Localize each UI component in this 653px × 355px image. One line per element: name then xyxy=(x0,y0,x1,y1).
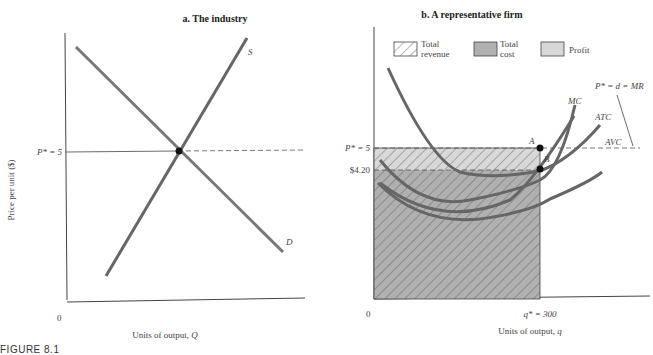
panel-b: b. A representative firm Total revenue T… xyxy=(344,9,650,336)
price-label: P* = 5 xyxy=(344,143,371,153)
mr-label: P* = d = MR xyxy=(594,81,644,91)
point-b xyxy=(537,166,544,173)
panel-a-title: a. The industry xyxy=(182,13,247,24)
point-a-label: A xyxy=(528,136,535,146)
legend-total-cost-label-1: Total xyxy=(500,39,519,49)
origin-label: 0 xyxy=(57,313,62,323)
price-dashed xyxy=(178,150,305,151)
legend-total-cost-label-2: cost xyxy=(500,49,515,59)
x-axis-label: Units of output, Q xyxy=(132,330,198,340)
legend-total-revenue-label-2: revenue xyxy=(421,49,449,59)
x-axis xyxy=(67,298,305,302)
figure-label: FIGURE 8.1 xyxy=(0,344,59,355)
panel-a: a. The industry Price per unit ($) 0 Uni… xyxy=(6,13,305,340)
cost-label: $4.20 xyxy=(350,165,371,175)
legend-total-cost-swatch xyxy=(474,42,497,56)
legend-profit-swatch xyxy=(541,42,564,56)
avc-label: AVC xyxy=(604,137,623,147)
legend-total-revenue-label-1: Total xyxy=(421,39,440,49)
price-line xyxy=(66,151,178,152)
demand-label: D xyxy=(285,237,293,247)
y-axis-label: Price per unit ($) xyxy=(6,159,16,220)
origin-label: 0 xyxy=(366,309,371,319)
q-label: q* = 300 xyxy=(523,309,557,319)
supply-label: S xyxy=(248,47,253,57)
equilibrium-point xyxy=(176,148,183,155)
mc-label: MC xyxy=(567,96,582,106)
supply-curve xyxy=(106,38,247,276)
price-label: P* = 5 xyxy=(36,147,63,157)
panel-b-title: b. A representative firm xyxy=(421,9,523,20)
point-a xyxy=(537,145,544,152)
legend-total-revenue-swatch xyxy=(394,42,417,56)
atc-label: ATC xyxy=(594,112,612,122)
legend-profit-label: Profit xyxy=(569,45,590,55)
point-b-label: B xyxy=(544,154,550,164)
x-axis-label: Units of output, q xyxy=(498,326,562,336)
y-axis xyxy=(65,33,67,300)
